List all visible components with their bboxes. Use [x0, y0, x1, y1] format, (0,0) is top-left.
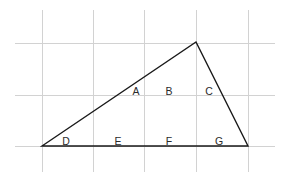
region-label-d: D — [62, 135, 70, 147]
region-label-c: C — [205, 85, 213, 97]
geometry-figure: A B C D E F G — [0, 0, 286, 186]
region-label-b: B — [165, 85, 172, 97]
grid-vertical-lines — [43, 10, 249, 172]
figure-canvas: A B C D E F G — [0, 0, 286, 186]
region-label-f: F — [166, 135, 172, 147]
region-label-g: G — [215, 135, 223, 147]
region-label-e: E — [114, 135, 121, 147]
region-label-a: A — [132, 85, 139, 97]
